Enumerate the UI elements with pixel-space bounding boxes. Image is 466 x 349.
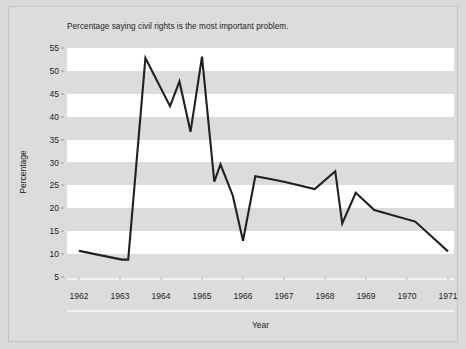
x-tick-mark	[284, 277, 285, 280]
x-tick-label: 1971	[439, 291, 458, 301]
y-tick-mark	[61, 48, 64, 49]
y-tick-mark	[61, 231, 64, 232]
y-tick-mark	[61, 185, 64, 186]
y-tick-label: 10	[50, 249, 59, 259]
y-tick-label: 40	[50, 112, 59, 122]
x-tick-label: 1966	[234, 291, 253, 301]
y-tick-mark	[61, 116, 64, 117]
x-tick-mark	[161, 277, 162, 280]
y-tick-label: 25	[50, 180, 59, 190]
x-tick-mark	[120, 277, 121, 280]
y-tick-mark	[61, 254, 64, 255]
y-tick-label: 20	[50, 203, 59, 213]
x-tick-label: 1964	[152, 291, 171, 301]
y-tick-mark	[61, 70, 64, 71]
x-tick-label: 1965	[193, 291, 212, 301]
chart-card: Percentage saying civil rights is the mo…	[8, 6, 458, 342]
chart-title: Percentage saying civil rights is the mo…	[67, 22, 288, 31]
y-tick-label: 30	[50, 158, 59, 168]
x-tick-label: 1962	[70, 291, 89, 301]
x-tick-mark	[202, 277, 203, 280]
x-axis-rule-bottom	[67, 310, 454, 312]
y-tick-label: 55	[50, 43, 59, 53]
y-tick-mark	[61, 93, 64, 94]
x-tick-mark	[448, 277, 449, 280]
series-line-chart	[67, 48, 454, 277]
x-tick-label: 1967	[275, 291, 294, 301]
series-polyline	[79, 57, 448, 260]
x-tick-label: 1969	[357, 291, 376, 301]
y-tick-mark	[61, 208, 64, 209]
x-tick-label: 1968	[316, 291, 335, 301]
y-tick-mark	[61, 139, 64, 140]
y-tick-label: 45	[50, 89, 59, 99]
x-tick-mark	[325, 277, 326, 280]
chart-figure: Percentage saying civil rights is the mo…	[0, 0, 466, 349]
x-tick-label: 1970	[398, 291, 417, 301]
x-tick-label: 1963	[111, 291, 130, 301]
y-tick-label: 15	[50, 226, 59, 236]
y-tick-mark	[61, 162, 64, 163]
x-tick-mark	[79, 277, 80, 280]
x-tick-mark	[243, 277, 244, 280]
y-tick-label: 35	[50, 135, 59, 145]
x-tick-mark	[366, 277, 367, 280]
plot-area	[67, 48, 454, 277]
y-tick-label: 50	[50, 66, 59, 76]
x-tick-mark	[407, 277, 408, 280]
x-axis-title: Year	[67, 320, 454, 330]
